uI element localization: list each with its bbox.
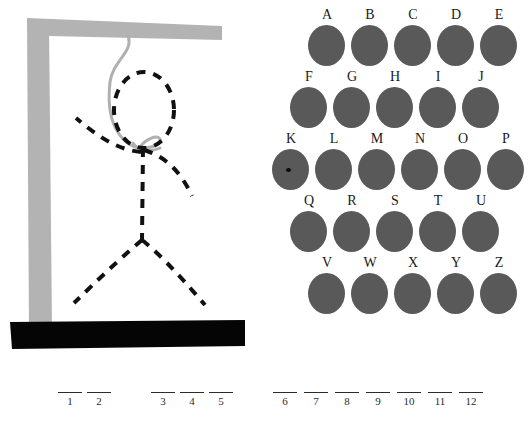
alphabet-row: QRSTU [288,194,528,256]
letter-disc[interactable] [419,87,456,128]
blank-line [428,392,452,393]
blank-line [366,392,390,393]
letter-button-h[interactable]: H [374,70,416,132]
letter-label: Q [288,194,330,208]
letter-button-u[interactable]: U [460,194,502,256]
letter-label: B [349,8,391,22]
blank-line [304,392,328,393]
letter-button-d[interactable]: D [435,8,477,70]
letter-label: T [417,194,459,208]
dashed-left-leg [74,240,142,303]
letter-disc[interactable] [480,25,517,66]
letter-disc[interactable] [290,211,327,252]
blank-line [273,392,297,393]
blank-number: 7 [304,395,328,407]
answer-blank-2: 2 [87,386,111,416]
letter-label: D [435,8,477,22]
letter-button-a[interactable]: A [306,8,348,70]
letter-disc[interactable] [376,211,413,252]
blank-line [459,392,483,393]
letter-button-p[interactable]: P [485,132,527,194]
letter-button-m[interactable]: M [356,132,398,194]
letter-label: C [392,8,434,22]
letter-label: M [356,132,398,146]
letter-label: F [288,70,330,84]
letter-button-w[interactable]: W [349,256,391,318]
letter-button-o[interactable]: O [442,132,484,194]
dashed-torso [142,148,143,240]
letter-label: P [485,132,527,146]
letter-button-z[interactable]: Z [478,256,520,318]
letter-label: L [313,132,355,146]
letter-disc[interactable] [462,211,499,252]
letter-disc[interactable] [351,273,388,314]
gallows-panel [0,0,280,370]
letter-label: G [331,70,373,84]
letter-button-l[interactable]: L [313,132,355,194]
letter-label: E [478,8,520,22]
blank-number: 1 [58,395,82,407]
letter-label: O [442,132,484,146]
answer-blank-1: 1 [58,386,82,416]
letter-button-y[interactable]: Y [435,256,477,318]
letter-button-n[interactable]: N [399,132,441,194]
letter-button-q[interactable]: Q [288,194,330,256]
letter-button-j[interactable]: J [460,70,502,132]
letter-button-t[interactable]: T [417,194,459,256]
letter-disc[interactable] [437,273,474,314]
letter-disc[interactable] [333,211,370,252]
answer-blank-8: 8 [335,386,359,416]
letter-label: W [349,256,391,270]
blank-number: 12 [459,395,483,407]
letter-disc[interactable] [376,87,413,128]
letter-disc[interactable] [358,149,395,190]
letter-label: Z [478,256,520,270]
letter-button-i[interactable]: I [417,70,459,132]
letter-button-f[interactable]: F [288,70,330,132]
blank-number: 9 [366,395,390,407]
dashed-right-arm [144,150,192,196]
letter-disc[interactable] [351,25,388,66]
answer-blank-10: 10 [397,386,421,416]
letter-button-b[interactable]: B [349,8,391,70]
hangman-game-stage: ABCDEFGHIJKLMNOPQRSTUVWXYZ 1234567891011… [0,0,528,428]
letter-button-g[interactable]: G [331,70,373,132]
letter-disc[interactable] [394,273,431,314]
cursor-dot [286,168,291,172]
letter-label: J [460,70,502,84]
letter-label: U [460,194,502,208]
letter-disc[interactable] [333,87,370,128]
letter-disc[interactable] [290,87,327,128]
letter-disc[interactable] [394,25,431,66]
answer-blanks: 123456789101112 [0,386,528,420]
letter-button-v[interactable]: V [306,256,348,318]
letter-disc[interactable] [437,25,474,66]
letter-button-k[interactable]: K [270,132,312,194]
answer-blank-4: 4 [180,386,204,416]
alphabet-panel: ABCDEFGHIJKLMNOPQRSTUVWXYZ [288,8,528,368]
letter-disc[interactable] [487,149,524,190]
letter-label: I [417,70,459,84]
letter-disc[interactable] [308,273,345,314]
letter-disc[interactable] [315,149,352,190]
answer-blank-3: 3 [151,386,175,416]
letter-disc[interactable] [419,211,456,252]
letter-disc[interactable] [308,25,345,66]
letter-button-r[interactable]: R [331,194,373,256]
letter-disc[interactable] [401,149,438,190]
alphabet-row: ABCDE [288,8,528,70]
letter-label: H [374,70,416,84]
letter-button-e[interactable]: E [478,8,520,70]
alphabet-row: KLMNOP [288,132,528,194]
letter-label: A [306,8,348,22]
blank-number: 2 [87,395,111,407]
letter-button-s[interactable]: S [374,194,416,256]
blank-line [209,392,233,393]
letter-button-x[interactable]: X [392,256,434,318]
letter-disc[interactable] [444,149,481,190]
letter-label: X [392,256,434,270]
letter-button-c[interactable]: C [392,8,434,70]
letter-disc[interactable] [462,87,499,128]
letter-disc[interactable] [480,273,517,314]
letter-label: R [331,194,373,208]
